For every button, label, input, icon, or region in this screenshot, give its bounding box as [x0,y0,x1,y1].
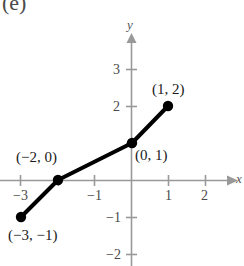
y-tick-label-2: 2 [113,100,120,114]
x-tick-label--3: −3 [13,189,28,203]
x-tick-label-2: 2 [201,189,208,203]
y-axis-name: y [127,18,133,31]
point-label--2-0: (−2, 0) [16,150,57,165]
x-axis-name: x [236,172,242,185]
point-label-0-1: (0, 1) [135,148,168,163]
data-point-1-2 [163,101,173,111]
data-point--3--1 [16,212,26,222]
y-axis-arrowhead [127,33,137,43]
point-label-1-2: (1, 2) [152,82,185,97]
y-tick-label-3: 3 [113,63,120,77]
y-tick-label--2: −2 [106,248,121,262]
y-tick-label--1: −1 [106,211,121,225]
x-tick-label--1: −1 [87,189,102,203]
data-point--2-0 [53,175,63,185]
point-label--3--1: (−3, −1) [8,228,57,243]
x-tick-label-1: 1 [165,189,172,203]
figure-container: (e) [0,0,244,266]
x-axis [0,176,238,186]
